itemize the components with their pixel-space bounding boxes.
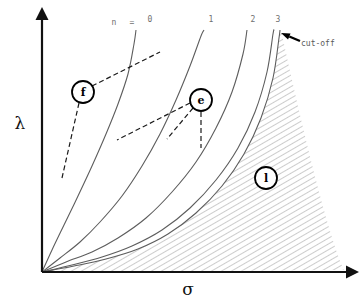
series-prefix-equals: = <box>130 18 135 27</box>
series-prefix-n: n <box>112 18 117 27</box>
leader-e-0 <box>117 103 190 140</box>
leader-f-1 <box>62 103 79 178</box>
curve-label-0: 0 <box>148 15 153 24</box>
physics-diagram: fel 0123 cut-off λ σ n = <box>0 0 362 308</box>
cutoff-pointer: cut-off <box>281 33 335 48</box>
badge-label-e: e <box>198 94 205 107</box>
curve-labels: 0123 <box>148 15 281 24</box>
y-axis-label: λ <box>15 113 26 133</box>
curve-label-3: 3 <box>276 15 281 24</box>
badge-label-l: l <box>264 172 268 185</box>
badge-l: l <box>255 167 277 189</box>
cutoff-arrow-shaft <box>289 36 300 41</box>
curve-label-1: 1 <box>209 15 214 24</box>
figure-canvas: fel 0123 cut-off λ σ n = <box>0 0 362 308</box>
x-axis-label: σ <box>182 279 194 299</box>
callout-leader-lines <box>62 52 201 178</box>
cutoff-label: cut-off <box>301 39 335 48</box>
curve-label-2: 2 <box>251 15 256 24</box>
badge-f: f <box>72 81 94 103</box>
badge-e: e <box>190 89 212 111</box>
